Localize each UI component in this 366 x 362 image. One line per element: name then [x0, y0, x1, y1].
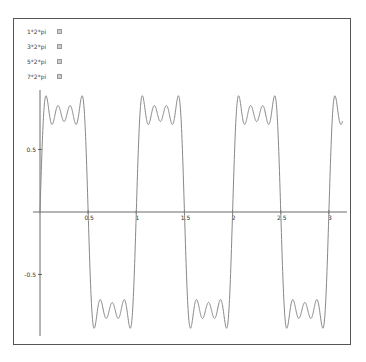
plot-area: 0.511.522.53 0.5-0.5 — [0, 0, 366, 362]
x-tick-label: 2.5 — [277, 214, 287, 221]
y-tick-label: 0.5 — [26, 146, 36, 153]
y-tick-label: -0.5 — [24, 271, 36, 278]
x-tick-label: 1.5 — [181, 214, 191, 221]
x-tick-label: 0.5 — [84, 214, 94, 221]
y-ticks: 0.5-0.5 — [24, 146, 42, 278]
